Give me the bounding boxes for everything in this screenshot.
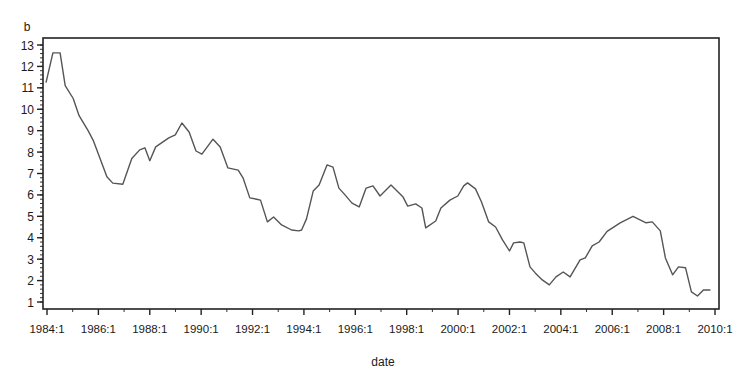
line-chart: 12345678910111213 1984:11986:11988:11990… xyxy=(0,0,747,391)
y-tick-label: 4 xyxy=(27,231,34,245)
x-tick-label: 2008:1 xyxy=(646,323,681,335)
chart-canvas: 12345678910111213 1984:11986:11988:11990… xyxy=(0,0,747,391)
x-tick-label: 1994:1 xyxy=(286,323,321,335)
y-tick-label: 7 xyxy=(27,167,34,181)
x-tick-label: 2002:1 xyxy=(492,323,527,335)
x-tick-label: 1998:1 xyxy=(389,323,424,335)
x-tick-label: 1984:1 xyxy=(29,323,64,335)
x-tick-label: 1992:1 xyxy=(235,323,270,335)
x-tick-label: 2010:1 xyxy=(697,323,732,335)
x-tick-label: 1990:1 xyxy=(184,323,219,335)
x-tick-label: 1986:1 xyxy=(81,323,116,335)
y-tick-label: 9 xyxy=(27,124,34,138)
x-tick-label: 2004:1 xyxy=(543,323,578,335)
y-tick-label: 10 xyxy=(21,103,35,117)
y-tick-label: 1 xyxy=(27,296,34,310)
x-axis-title: date xyxy=(371,355,395,369)
y-tick-label: 11 xyxy=(22,81,35,95)
y-tick-label: 3 xyxy=(27,253,34,267)
x-tick-label: 2000:1 xyxy=(440,323,475,335)
y-tick-label: 12 xyxy=(21,60,35,74)
y-tick-label: 5 xyxy=(27,210,34,224)
y-tick-label: 8 xyxy=(27,146,34,160)
y-tick-label: 13 xyxy=(21,39,35,53)
data-series-b xyxy=(46,53,710,296)
y-tick-label: 6 xyxy=(27,188,34,202)
plot-frame xyxy=(43,38,719,309)
y-tick-label: 2 xyxy=(27,274,34,288)
y-axis: 12345678910111213 xyxy=(21,39,43,310)
x-axis: 1984:11986:11988:11990:11992:11994:11996… xyxy=(29,309,732,335)
x-tick-label: 1988:1 xyxy=(132,323,167,335)
y-axis-title: b xyxy=(24,20,31,34)
x-tick-label: 1996:1 xyxy=(338,323,373,335)
x-tick-label: 2006:1 xyxy=(595,323,630,335)
